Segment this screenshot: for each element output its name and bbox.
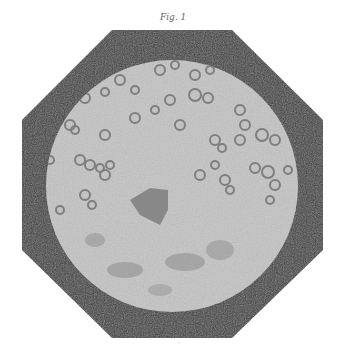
footer-mark: ': [178, 340, 180, 347]
microscope-field: [46, 60, 298, 312]
microscope-figure: [0, 0, 341, 350]
